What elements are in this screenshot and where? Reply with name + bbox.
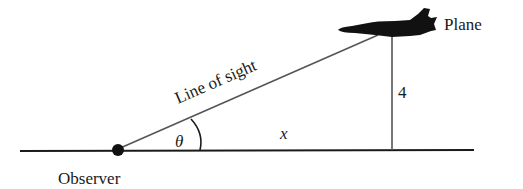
ground-line — [20, 150, 474, 151]
angle-arc — [191, 119, 201, 150]
height-label: 4 — [398, 83, 407, 102]
plane-label: Plane — [444, 15, 482, 34]
diagram-canvas: Plane Line of sight 4 θ x Observer — [0, 0, 523, 189]
observer-label: Observer — [58, 169, 121, 188]
plane-icon — [338, 8, 437, 37]
line-of-sight-label: Line of sight — [172, 55, 260, 107]
line-of-sight — [118, 35, 378, 149]
observer-dot — [112, 144, 124, 156]
horizontal-distance-label: x — [279, 124, 288, 143]
angle-label: θ — [175, 132, 183, 151]
